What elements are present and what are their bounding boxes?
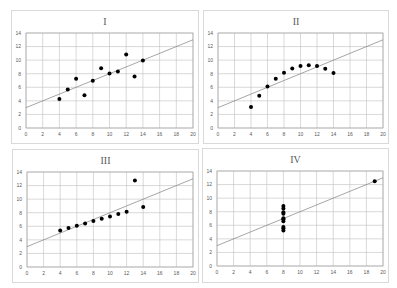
data-points <box>249 63 336 109</box>
svg-text:14: 14 <box>140 131 146 137</box>
svg-text:18: 18 <box>364 131 370 137</box>
scatter-plot: 0246810121416182002468101214 <box>203 149 390 284</box>
data-point <box>108 214 112 218</box>
svg-text:4: 4 <box>249 269 252 275</box>
svg-text:12: 12 <box>314 131 320 137</box>
svg-text:10: 10 <box>15 57 21 63</box>
chart-panel-2: II 0246810121416182002468101214 <box>203 10 389 144</box>
svg-text:12: 12 <box>124 270 130 276</box>
svg-text:4: 4 <box>58 131 61 137</box>
svg-text:18: 18 <box>174 131 180 137</box>
svg-text:12: 12 <box>15 43 21 49</box>
svg-text:20: 20 <box>380 131 386 137</box>
data-point <box>125 210 129 214</box>
data-point <box>266 84 270 88</box>
svg-text:10: 10 <box>298 131 304 137</box>
svg-text:0: 0 <box>26 270 29 276</box>
data-point <box>307 63 311 67</box>
data-point <box>281 226 285 230</box>
scatter-plot: 0246810121416182002468101214 <box>12 11 200 145</box>
data-point <box>99 66 103 70</box>
data-point <box>141 58 145 62</box>
svg-text:12: 12 <box>314 269 320 275</box>
svg-text:12: 12 <box>16 182 22 188</box>
svg-text:2: 2 <box>42 270 45 276</box>
svg-text:4: 4 <box>59 270 62 276</box>
svg-text:10: 10 <box>207 57 213 63</box>
grid <box>217 171 383 266</box>
svg-text:2: 2 <box>41 131 44 137</box>
data-point <box>100 217 104 221</box>
svg-text:0: 0 <box>210 125 213 131</box>
data-point <box>133 179 137 183</box>
scatter-plot: 0246810121416182002468101214 <box>13 150 200 284</box>
data-point <box>133 75 137 79</box>
svg-text:4: 4 <box>18 98 21 104</box>
svg-text:8: 8 <box>92 270 95 276</box>
svg-text:10: 10 <box>297 269 303 275</box>
data-points <box>281 179 376 232</box>
svg-text:14: 14 <box>330 269 336 275</box>
data-point <box>282 71 286 75</box>
data-point <box>124 52 128 56</box>
chart-panel-1: I 0246810121416182002468101214 <box>11 10 199 144</box>
data-point <box>108 71 112 75</box>
data-point <box>74 77 78 81</box>
svg-text:12: 12 <box>207 43 213 49</box>
svg-text:8: 8 <box>209 209 212 215</box>
data-point <box>281 207 285 211</box>
data-point <box>75 224 79 228</box>
svg-text:16: 16 <box>157 131 163 137</box>
svg-text:16: 16 <box>347 269 353 275</box>
data-point <box>67 226 71 230</box>
data-point <box>116 69 120 73</box>
svg-text:10: 10 <box>16 196 22 202</box>
data-point <box>281 217 285 221</box>
svg-text:2: 2 <box>18 111 21 117</box>
svg-text:0: 0 <box>18 125 21 131</box>
data-point <box>249 105 253 109</box>
data-point <box>332 71 336 75</box>
data-point <box>290 66 294 70</box>
svg-text:0: 0 <box>209 263 212 269</box>
data-point <box>299 64 303 68</box>
svg-text:10: 10 <box>107 270 113 276</box>
scatter-plot: 0246810121416182002468101214 <box>204 11 390 145</box>
svg-text:10: 10 <box>206 195 212 201</box>
svg-text:14: 14 <box>206 168 212 174</box>
svg-text:6: 6 <box>209 222 212 228</box>
svg-text:20: 20 <box>190 131 196 137</box>
data-points <box>58 179 145 233</box>
svg-text:2: 2 <box>210 111 213 117</box>
data-point <box>91 219 95 223</box>
data-point <box>257 94 261 98</box>
data-point <box>83 221 87 225</box>
data-point <box>58 228 62 232</box>
grid <box>218 33 383 128</box>
svg-text:6: 6 <box>266 131 269 137</box>
data-point <box>373 179 377 183</box>
svg-text:14: 14 <box>16 169 22 175</box>
svg-text:0: 0 <box>217 131 220 137</box>
data-point <box>82 93 86 97</box>
svg-text:12: 12 <box>123 131 129 137</box>
chart-panel-3: III 0246810121416182002468101214 <box>12 149 199 283</box>
svg-text:16: 16 <box>347 131 353 137</box>
data-point <box>315 64 319 68</box>
svg-text:8: 8 <box>19 210 22 216</box>
svg-text:12: 12 <box>206 181 212 187</box>
svg-text:6: 6 <box>19 223 22 229</box>
svg-text:14: 14 <box>207 30 213 36</box>
svg-text:2: 2 <box>19 250 22 256</box>
data-point <box>323 67 327 71</box>
data-point <box>91 79 95 83</box>
svg-text:14: 14 <box>140 270 146 276</box>
svg-text:8: 8 <box>283 131 286 137</box>
svg-text:6: 6 <box>210 84 213 90</box>
svg-text:0: 0 <box>216 269 219 275</box>
svg-text:8: 8 <box>18 71 21 77</box>
data-point <box>116 212 120 216</box>
svg-text:6: 6 <box>75 270 78 276</box>
data-point <box>274 77 278 81</box>
svg-text:6: 6 <box>18 84 21 90</box>
